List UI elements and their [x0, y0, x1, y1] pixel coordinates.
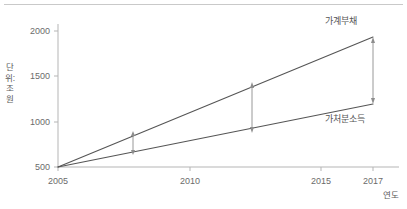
y-tick-label-500: 500 — [35, 162, 50, 172]
chart-figure: 단위: 조 원 2000 1500 1000 500 2005 2010 201… — [0, 0, 407, 209]
x-axis-title: 연도 — [383, 190, 399, 200]
x-tick-label-2015: 2015 — [311, 176, 331, 186]
y-tick-label-2000: 2000 — [30, 26, 50, 36]
y-tick-label-1500: 1500 — [30, 71, 50, 81]
series-line-debt — [58, 37, 373, 167]
x-tick-label-2005: 2005 — [48, 176, 68, 186]
x-tick-label-2010: 2010 — [180, 176, 200, 186]
chart-plot-area: 2000 1500 1000 500 2005 2010 2015 2017 연… — [0, 0, 407, 209]
series-label-debt: 가계부채 — [325, 15, 357, 26]
x-tick-label-2017: 2017 — [363, 176, 383, 186]
series-label-income: 가처분소득 — [325, 113, 365, 124]
gap-annotation-2008 — [131, 131, 135, 155]
y-tick-label-1000: 1000 — [30, 117, 50, 127]
gap-annotation-2017 — [371, 37, 375, 104]
gap-annotation-2012 — [250, 82, 254, 133]
